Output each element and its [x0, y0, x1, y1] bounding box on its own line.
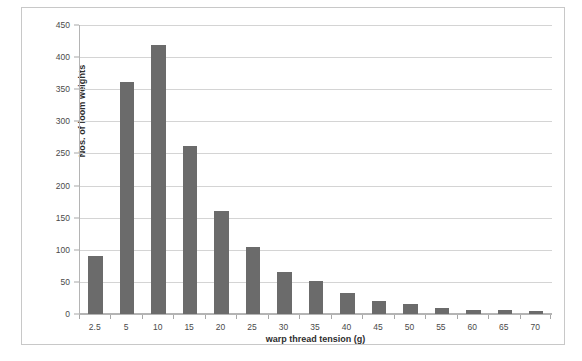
y-tick-label: 50: [61, 277, 70, 287]
y-tick-label: 200: [56, 181, 70, 191]
x-tick-mark: [331, 315, 332, 319]
y-tick-label: 400: [56, 52, 70, 62]
bar: [403, 304, 417, 314]
bar: [340, 293, 354, 314]
x-tick-mark: [457, 315, 458, 319]
bar: [277, 272, 291, 314]
bar: [435, 308, 449, 314]
y-tick-label: 300: [56, 116, 70, 126]
x-tick-label: 60: [468, 322, 477, 332]
bar: [214, 211, 228, 314]
y-axis-tick-labels: 050100150200250300350400450: [22, 25, 79, 315]
bar: [246, 247, 260, 314]
x-tick-label: 35: [310, 322, 319, 332]
x-tick-mark: [550, 315, 551, 319]
bar: [498, 310, 512, 314]
bar: [309, 281, 323, 314]
chart-figure: Nos. of loom weights 0501001502002503003…: [21, 7, 565, 345]
y-tick-label: 100: [56, 245, 70, 255]
y-tick-label: 250: [56, 148, 70, 158]
bar: [151, 45, 165, 314]
x-tick-label: 55: [436, 322, 445, 332]
x-tick-mark: [268, 315, 269, 319]
bar: [529, 311, 543, 314]
y-tick-label: 450: [56, 20, 70, 30]
x-tick-mark: [425, 315, 426, 319]
x-tick-mark: [394, 315, 395, 319]
x-tick-mark: [520, 315, 521, 319]
x-tick-label: 50: [405, 322, 414, 332]
x-tick-mark: [110, 315, 111, 319]
x-tick-mark: [205, 315, 206, 319]
x-tick-mark: [362, 315, 363, 319]
bars-layer: [80, 25, 552, 314]
x-tick-mark: [488, 315, 489, 319]
bar: [466, 310, 480, 314]
x-tick-label: 45: [373, 322, 382, 332]
bar: [372, 301, 386, 314]
x-tick-mark: [79, 315, 80, 319]
x-tick-label: 15: [184, 322, 193, 332]
bar: [120, 82, 134, 314]
x-axis-title: warp thread tension (g): [79, 334, 552, 344]
bar: [183, 146, 197, 314]
x-tick-label: 70: [531, 322, 540, 332]
x-tick-label: 2.5: [89, 322, 101, 332]
bar: [88, 256, 102, 314]
x-tick-label: 65: [499, 322, 508, 332]
y-tick-label: 150: [56, 213, 70, 223]
x-tick-label: 25: [247, 322, 256, 332]
x-tick-mark: [236, 315, 237, 319]
x-tick-label: 5: [124, 322, 129, 332]
x-tick-label: 10: [153, 322, 162, 332]
plot-area: [79, 25, 552, 315]
x-tick-mark: [299, 315, 300, 319]
y-tick-label: 350: [56, 84, 70, 94]
x-tick-mark: [173, 315, 174, 319]
y-tick-label: 0: [65, 309, 70, 319]
x-tick-mark: [142, 315, 143, 319]
x-tick-label: 40: [342, 322, 351, 332]
x-tick-label: 20: [216, 322, 225, 332]
x-tick-label: 30: [279, 322, 288, 332]
